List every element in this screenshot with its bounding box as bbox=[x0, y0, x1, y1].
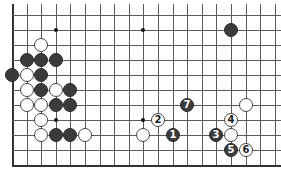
white-stone bbox=[78, 128, 92, 142]
grid-line-horizontal bbox=[12, 45, 281, 46]
white-stone bbox=[239, 98, 253, 112]
board-bottom-edge bbox=[12, 165, 281, 167]
grid-line-vertical bbox=[158, 4, 159, 166]
grid-line-horizontal bbox=[12, 75, 281, 76]
black-stone bbox=[49, 53, 63, 67]
white-stone bbox=[20, 98, 34, 112]
white-stone bbox=[20, 83, 34, 97]
black-stone bbox=[34, 68, 48, 82]
grid-line-vertical bbox=[260, 4, 261, 166]
grid-line-vertical bbox=[275, 4, 276, 166]
white-stone-move-6: 6 bbox=[239, 143, 253, 157]
white-stone bbox=[34, 128, 48, 142]
white-stone bbox=[34, 98, 48, 112]
white-stone bbox=[34, 113, 48, 127]
go-board: 7241356 bbox=[0, 0, 281, 176]
black-stone bbox=[20, 53, 34, 67]
grid-line-vertical bbox=[114, 4, 115, 166]
grid-line-vertical bbox=[129, 4, 130, 166]
white-stone-move-4: 4 bbox=[224, 113, 238, 127]
black-stone bbox=[63, 98, 77, 112]
star-point bbox=[54, 118, 58, 122]
white-stone bbox=[224, 128, 238, 142]
white-stone bbox=[49, 83, 63, 97]
black-stone bbox=[34, 83, 48, 97]
star-point bbox=[141, 28, 145, 32]
black-stone bbox=[63, 83, 77, 97]
black-stone-move-5: 5 bbox=[224, 143, 238, 157]
board-left-edge bbox=[12, 4, 14, 166]
grid-line-vertical bbox=[246, 4, 247, 166]
white-stone bbox=[136, 128, 150, 142]
black-stone bbox=[63, 128, 77, 142]
black-stone-move-7: 7 bbox=[180, 98, 194, 112]
black-stone-move-1: 1 bbox=[166, 128, 180, 142]
black-stone bbox=[34, 53, 48, 67]
white-stone-move-2: 2 bbox=[151, 113, 165, 127]
grid-line-horizontal bbox=[12, 15, 281, 16]
black-stone-move-3: 3 bbox=[209, 128, 223, 142]
grid-line-vertical bbox=[202, 4, 203, 166]
grid-line-horizontal bbox=[12, 120, 281, 121]
star-point bbox=[54, 28, 58, 32]
star-point bbox=[141, 118, 145, 122]
grid-line-horizontal bbox=[12, 30, 281, 31]
grid-line-vertical bbox=[100, 4, 101, 166]
black-stone bbox=[49, 98, 63, 112]
black-stone bbox=[49, 128, 63, 142]
white-stone bbox=[34, 38, 48, 52]
grid-line-vertical bbox=[187, 4, 188, 166]
white-stone bbox=[20, 68, 34, 82]
black-stone bbox=[224, 23, 238, 37]
black-stone bbox=[5, 68, 19, 82]
